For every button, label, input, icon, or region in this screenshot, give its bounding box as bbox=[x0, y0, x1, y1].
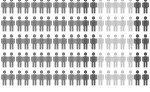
person-icon bbox=[75, 16, 82, 32]
person-icon bbox=[16, 70, 23, 86]
person-icon bbox=[1, 0, 8, 14]
person-icon bbox=[97, 34, 104, 50]
person-icon bbox=[8, 70, 15, 86]
person-icon bbox=[105, 52, 112, 68]
person-icon bbox=[134, 52, 141, 68]
person-icon bbox=[8, 16, 15, 32]
person-icon bbox=[60, 16, 67, 32]
person-icon bbox=[53, 0, 60, 14]
person-icon bbox=[38, 16, 45, 32]
person-icon bbox=[75, 52, 82, 68]
person-icon bbox=[142, 0, 149, 14]
person-icon bbox=[142, 52, 149, 68]
person-icon bbox=[53, 34, 60, 50]
person-icon bbox=[127, 16, 134, 32]
person-icon bbox=[112, 34, 119, 50]
person-icon bbox=[68, 70, 75, 86]
person-icon bbox=[38, 52, 45, 68]
pictogram-row bbox=[0, 0, 150, 15]
person-icon bbox=[53, 70, 60, 86]
person-icon bbox=[23, 52, 30, 68]
person-icon bbox=[75, 0, 82, 14]
person-icon bbox=[68, 34, 75, 50]
person-icon bbox=[97, 0, 104, 14]
person-icon bbox=[38, 0, 45, 14]
person-icon bbox=[1, 16, 8, 32]
pictogram-row bbox=[0, 70, 150, 87]
person-icon bbox=[60, 70, 67, 86]
person-icon bbox=[45, 34, 52, 50]
person-icon bbox=[38, 34, 45, 50]
person-icon bbox=[142, 16, 149, 32]
person-icon bbox=[45, 52, 52, 68]
person-icon bbox=[16, 0, 23, 14]
person-icon bbox=[119, 52, 126, 68]
person-icon bbox=[31, 70, 38, 86]
person-icon bbox=[1, 52, 8, 68]
person-icon bbox=[97, 70, 104, 86]
person-icon bbox=[127, 52, 134, 68]
person-icon bbox=[8, 34, 15, 50]
person-icon bbox=[16, 52, 23, 68]
person-icon bbox=[68, 0, 75, 14]
person-icon bbox=[82, 52, 89, 68]
person-icon bbox=[45, 16, 52, 32]
pictogram-row bbox=[0, 34, 150, 51]
person-icon bbox=[31, 34, 38, 50]
person-icon bbox=[90, 16, 97, 32]
person-icon bbox=[112, 16, 119, 32]
person-icon bbox=[134, 34, 141, 50]
person-icon bbox=[82, 70, 89, 86]
person-icon bbox=[38, 70, 45, 86]
person-icon bbox=[90, 0, 97, 14]
person-icon bbox=[16, 16, 23, 32]
person-icon bbox=[119, 16, 126, 32]
person-icon bbox=[119, 70, 126, 86]
person-icon bbox=[45, 70, 52, 86]
person-icon bbox=[1, 70, 8, 86]
person-icon bbox=[16, 34, 23, 50]
person-icon bbox=[127, 70, 134, 86]
person-icon bbox=[68, 52, 75, 68]
person-icon bbox=[119, 34, 126, 50]
person-icon bbox=[8, 52, 15, 68]
person-icon bbox=[112, 0, 119, 14]
person-icon bbox=[1, 34, 8, 50]
pictogram-row bbox=[0, 16, 150, 33]
person-icon bbox=[127, 0, 134, 14]
person-icon bbox=[134, 0, 141, 14]
person-icon bbox=[23, 16, 30, 32]
person-icon bbox=[60, 0, 67, 14]
person-icon bbox=[112, 52, 119, 68]
person-icon bbox=[23, 70, 30, 86]
person-icon bbox=[8, 0, 15, 14]
person-icon bbox=[134, 16, 141, 32]
person-icon bbox=[97, 52, 104, 68]
person-icon bbox=[105, 34, 112, 50]
person-icon bbox=[23, 0, 30, 14]
person-icon bbox=[68, 16, 75, 32]
person-icon bbox=[105, 16, 112, 32]
person-icon bbox=[134, 70, 141, 86]
person-icon bbox=[105, 70, 112, 86]
person-icon bbox=[31, 52, 38, 68]
person-icon bbox=[60, 34, 67, 50]
person-icon bbox=[119, 0, 126, 14]
person-icon bbox=[90, 52, 97, 68]
person-icon bbox=[31, 0, 38, 14]
person-icon bbox=[105, 0, 112, 14]
person-icon bbox=[60, 52, 67, 68]
person-icon bbox=[45, 0, 52, 14]
person-icon bbox=[97, 16, 104, 32]
person-icon bbox=[90, 70, 97, 86]
person-icon bbox=[90, 34, 97, 50]
person-icon bbox=[142, 34, 149, 50]
person-icon bbox=[82, 34, 89, 50]
person-icon bbox=[31, 16, 38, 32]
person-icon bbox=[82, 0, 89, 14]
person-icon bbox=[75, 34, 82, 50]
person-icon bbox=[75, 70, 82, 86]
person-icon bbox=[112, 70, 119, 86]
person-icon bbox=[142, 70, 149, 86]
person-icon bbox=[53, 16, 60, 32]
